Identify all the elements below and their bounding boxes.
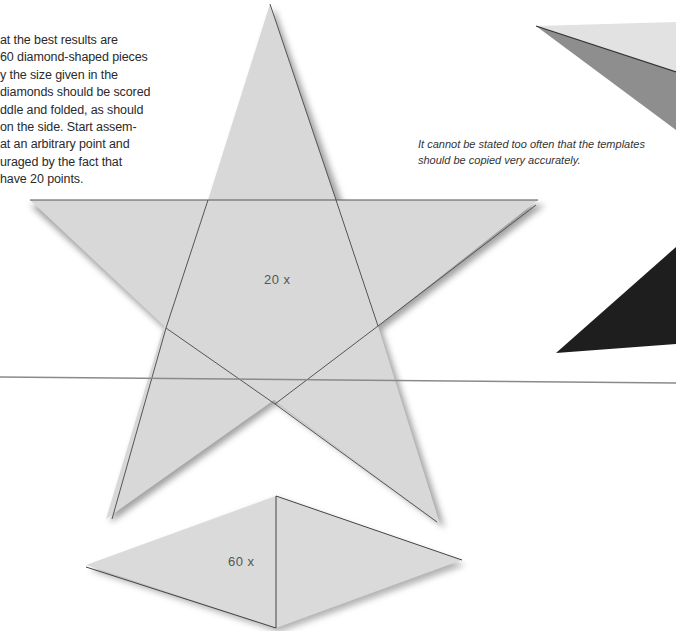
- figure-caption: It cannot be stated too often that the t…: [418, 137, 676, 168]
- diamond-count-label: 60 x: [228, 554, 255, 569]
- star-count-label: 20 x: [264, 272, 291, 287]
- diamond-template: [86, 496, 462, 628]
- model-preview: [536, 22, 676, 353]
- body-text: at the best results are 60 diamond-shape…: [0, 32, 230, 189]
